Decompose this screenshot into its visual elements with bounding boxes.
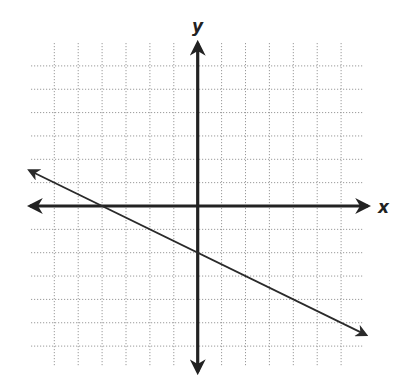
x-axis-label: x <box>377 197 390 217</box>
coordinate-plane: x y <box>0 0 414 390</box>
y-axis-label: y <box>192 16 204 36</box>
